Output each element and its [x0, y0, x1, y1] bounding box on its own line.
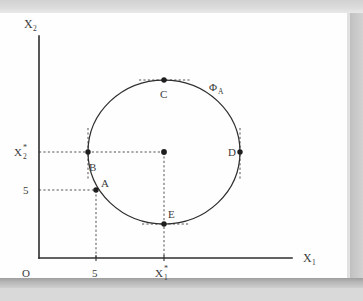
scanned-page-background: A B C D E Φ A X 2 X 1 O X 2 * 5 — [0, 0, 363, 301]
point-label-B: B — [89, 161, 96, 173]
x-tick-label-x1star-star: * — [164, 264, 168, 273]
point-label-C: C — [160, 88, 167, 100]
y-tick-labels: X 2 * 5 — [14, 143, 29, 196]
y-tick-label-x2star-star: * — [23, 143, 27, 152]
point-marker-E[interactable] — [161, 221, 166, 226]
x-tick-label-5: 5 — [92, 267, 98, 279]
construction-lines — [39, 152, 164, 258]
figure-diagram: A B C D E Φ A X 2 X 1 O X 2 * 5 — [0, 0, 363, 301]
point-label-E: E — [168, 208, 175, 220]
point-marker-A[interactable] — [93, 187, 98, 192]
axis-labels: X 2 X 1 O — [22, 17, 316, 279]
x-axis-label-subscript: 1 — [312, 258, 316, 267]
y-tick-label-x2star-subscript: 2 — [23, 152, 27, 161]
point-marker-C[interactable] — [161, 77, 166, 82]
point-label-A: A — [101, 177, 109, 189]
x-tick-label-x1star-subscript: 1 — [164, 273, 168, 282]
y-axis-label: X — [24, 17, 33, 31]
x-axis-label: X — [303, 251, 312, 265]
point-label-D: D — [228, 146, 236, 158]
point-marker-center[interactable] — [161, 149, 167, 155]
contour-label: Φ A — [209, 81, 224, 96]
y-tick-label-5: 5 — [23, 184, 29, 196]
contour-label-phi: Φ — [209, 81, 217, 93]
contour-label-subscript: A — [218, 87, 224, 96]
x-tick-labels: 5 X 1 * — [92, 264, 168, 282]
y-axis-label-subscript: 2 — [33, 24, 37, 33]
point-marker-D[interactable] — [237, 149, 242, 154]
x-tick-label-x1star: X — [155, 267, 163, 279]
y-tick-label-x2star: X — [14, 146, 22, 158]
origin-label: O — [22, 267, 30, 279]
point-marker-B[interactable] — [85, 149, 90, 154]
